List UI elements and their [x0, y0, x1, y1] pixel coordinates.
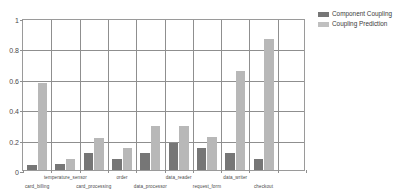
legend-item-coupling-prediction[interactable]: Coupling Prediction [318, 20, 398, 28]
x-axis-label-card_processing: card_processing [76, 185, 111, 190]
bar-card_processing-coupling-prediction [94, 138, 104, 170]
bar-card_billing-component-coupling [27, 165, 37, 170]
y-axis-tick-label: 0.6 [9, 77, 19, 84]
bar-data_reader-coupling-prediction [179, 126, 189, 170]
bar-data_processor-coupling-prediction [151, 126, 161, 170]
x-axis-tick-mark [165, 170, 166, 173]
x-axis-tick-mark [221, 170, 222, 173]
y-axis-tick-label: 0.8 [9, 47, 19, 54]
legend-item-label: Component Coupling [332, 11, 392, 17]
x-axis-tick-mark [193, 170, 194, 173]
x-axis-tick-mark [51, 170, 52, 173]
x-axis-label-data_processor: data_processor [134, 185, 167, 190]
x-axis-label-card_billing: card_billing [25, 185, 49, 190]
plot-area: 00.20.40.60.81 card_billingtemperature_s… [22, 19, 305, 171]
bar-order-coupling-prediction [123, 148, 133, 170]
y-axis-tick-mark [20, 81, 23, 82]
legend-item-component-coupling[interactable]: Component Coupling [318, 10, 398, 18]
x-axis-label-temperature_sensor: temperature_sensor [44, 176, 87, 181]
x-axis-label-checkout: checkout [254, 185, 273, 190]
y-axis-tick-label: 1 [15, 17, 19, 24]
x-axis-label-data_reader: data_reader [166, 176, 192, 181]
bar-card_processing-component-coupling [84, 153, 94, 170]
chart-legend: Component CouplingCoupling Prediction [318, 10, 398, 30]
x-axis-tick-mark [108, 170, 109, 173]
y-axis-tick-label: 0.2 [9, 138, 19, 145]
bar-data_writer-coupling-prediction [236, 71, 246, 170]
legend-color-swatch-icon [318, 22, 329, 27]
bar-order-component-coupling [112, 159, 122, 170]
bar-temperature_sensor-component-coupling [55, 164, 65, 170]
x-axis-tick-mark [249, 170, 250, 173]
y-axis-tick-mark [20, 20, 23, 21]
bar-data_writer-component-coupling [225, 153, 235, 170]
x-axis-label-request_form: request_form [193, 185, 221, 190]
y-axis-tick-label: 0.4 [9, 108, 19, 115]
bar-card_billing-coupling-prediction [38, 83, 48, 170]
y-axis-tick-mark [20, 50, 23, 51]
x-axis-label-data_writer: data_writer [223, 176, 247, 181]
bar-chart: 00.20.40.60.81 card_billingtemperature_s… [0, 0, 400, 196]
bar-data_processor-component-coupling [140, 153, 150, 170]
bar-temperature_sensor-coupling-prediction [66, 159, 76, 170]
x-axis-label-order: order [116, 176, 127, 181]
x-axis-tick-mark [80, 170, 81, 173]
bar-checkout-coupling-prediction [264, 39, 274, 170]
legend-color-swatch-icon [318, 12, 329, 17]
bar-data_reader-component-coupling [169, 143, 179, 170]
y-axis-tick-label: 0 [15, 169, 19, 176]
legend-item-label: Coupling Prediction [332, 21, 387, 27]
x-axis-tick-mark [306, 170, 307, 173]
bar-request_form-coupling-prediction [207, 137, 217, 170]
y-axis-tick-mark [20, 111, 23, 112]
bars-layer [23, 20, 304, 170]
x-axis-tick-mark [23, 170, 24, 173]
bar-request_form-component-coupling [197, 148, 207, 170]
y-axis-tick-mark [20, 142, 23, 143]
bar-checkout-component-coupling [254, 159, 264, 170]
x-axis-tick-mark [136, 170, 137, 173]
x-axis-tick-mark [278, 170, 279, 173]
